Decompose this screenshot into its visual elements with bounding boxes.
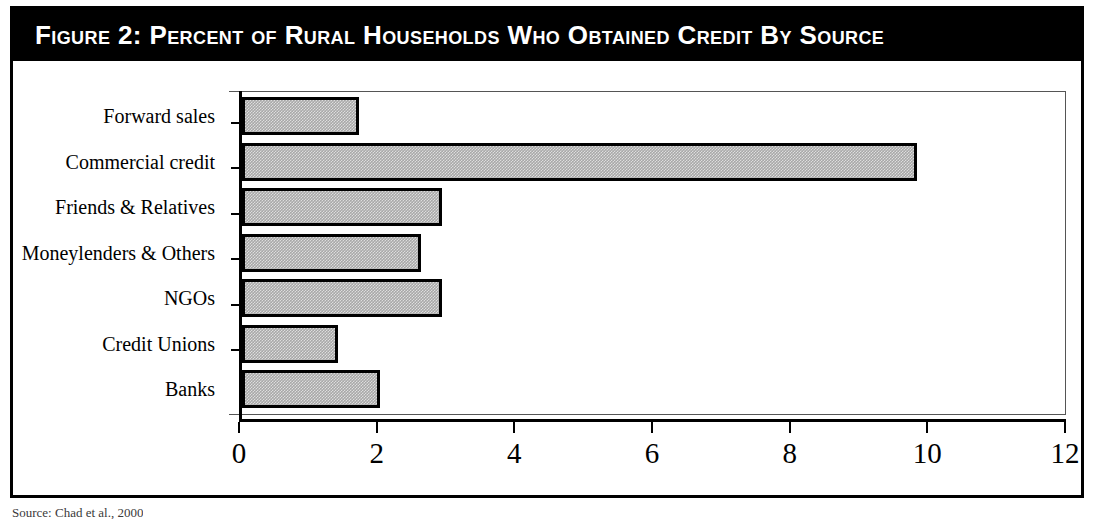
x-axis-tick-label: 12 <box>1051 437 1080 470</box>
bar-fill <box>242 325 338 363</box>
figure-title-banner: Figure 2: Percent of Rural Households Wh… <box>13 9 1081 61</box>
y-axis-tick <box>231 122 240 124</box>
category-label: Moneylenders & Others <box>22 234 215 272</box>
x-axis-tick <box>926 422 928 433</box>
bar-fill <box>242 234 421 272</box>
bar-fill <box>242 143 917 181</box>
y-axis-tick <box>231 304 240 306</box>
bar-forward-sales <box>242 97 359 135</box>
x-axis-tick-label: 0 <box>232 437 247 470</box>
y-axis-tick <box>231 349 240 351</box>
bar-commercial-credit <box>242 143 917 181</box>
category-label: Commercial credit <box>66 143 215 181</box>
bar-fill <box>242 97 359 135</box>
x-axis-tick <box>513 422 515 433</box>
y-axis-tick <box>231 167 240 169</box>
bar-credit-unions <box>242 325 338 363</box>
x-axis-tick-label: 10 <box>913 437 942 470</box>
figure-frame: Figure 2: Percent of Rural Households Wh… <box>10 6 1084 498</box>
bar-fill <box>242 188 442 226</box>
category-label: Banks <box>165 370 215 408</box>
bar-fill <box>242 370 380 408</box>
x-axis-tick-label: 4 <box>507 437 522 470</box>
bar-friends-relatives <box>242 188 442 226</box>
category-label: Forward sales <box>103 97 215 135</box>
figure-title: Figure 2: Percent of Rural Households Wh… <box>35 20 884 51</box>
category-label: Credit Unions <box>102 325 215 363</box>
x-axis-tick-label: 6 <box>645 437 660 470</box>
bar-moneylenders-others <box>242 234 421 272</box>
x-axis-tick <box>376 422 378 433</box>
chart-plot-area: Forward salesCommercial creditFriends & … <box>13 61 1081 497</box>
bar-banks <box>242 370 380 408</box>
x-axis-tick <box>651 422 653 433</box>
x-axis-tick-label: 2 <box>369 437 384 470</box>
x-axis-tick <box>238 422 240 433</box>
x-axis-tick-label: 8 <box>782 437 797 470</box>
bar-fill <box>242 279 442 317</box>
y-axis-tick <box>231 213 240 215</box>
y-axis-tick <box>231 258 240 260</box>
x-axis-tick <box>1064 422 1066 433</box>
x-axis-tick <box>789 422 791 433</box>
category-label: NGOs <box>164 279 215 317</box>
category-label: Friends & Relatives <box>55 188 215 226</box>
source-note: Source: Chad et al., 2000 <box>12 505 143 519</box>
bar-ngos <box>242 279 442 317</box>
